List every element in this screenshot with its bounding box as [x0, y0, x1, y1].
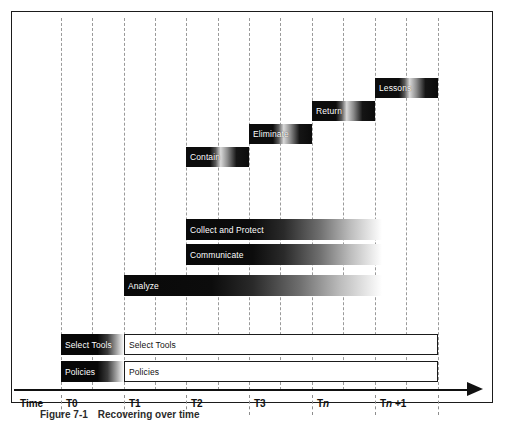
gantt-bar-return[interactable]: Return: [312, 101, 375, 121]
gantt-bar-eliminate[interactable]: Eliminate: [249, 124, 312, 144]
gantt-bar-label: Communicate: [190, 250, 244, 260]
summary-chip-label: Select Tools: [65, 340, 112, 350]
gantt-bar-label: Eliminate: [253, 129, 289, 139]
gantt-bar-analyze[interactable]: Analyze: [124, 275, 382, 296]
axis-title: Time: [20, 398, 43, 409]
figure-frame: Lessons Return Eliminate Contain Collect…: [11, 11, 493, 403]
summary-box-policies[interactable]: Policies: [124, 361, 438, 382]
axis-tick-t3: T3: [254, 398, 266, 409]
summary-chip-policies[interactable]: Policies: [61, 361, 124, 382]
figure-caption-number: Figure 7-1: [40, 409, 88, 420]
axis-tick-t0: T0: [66, 398, 78, 409]
axis-tick-t1: T1: [129, 398, 141, 409]
gantt-bar-label: Contain: [190, 152, 220, 162]
figure-caption-text: Recovering over time: [98, 409, 200, 420]
summary-box-select-tools[interactable]: Select Tools: [124, 334, 438, 355]
axis-tick-tn-plus-1: Tn +1: [380, 398, 406, 409]
summary-box-label: Select Tools: [129, 340, 176, 350]
axis-tick-t2: T2: [191, 398, 203, 409]
gantt-bar-label: Analyze: [128, 281, 159, 291]
time-axis-line: [14, 389, 469, 391]
summary-chip-label: Policies: [65, 367, 95, 377]
chart-plot-area: Lessons Return Eliminate Contain Collect…: [12, 12, 492, 402]
gantt-bar-collect-and-protect[interactable]: Collect and Protect: [186, 219, 382, 240]
gantt-bar-label: Return: [316, 106, 342, 116]
axis-tick-tn: Tn: [317, 398, 329, 409]
summary-chip-select-tools[interactable]: Select Tools: [61, 334, 124, 355]
gantt-bar-label: Collect and Protect: [190, 225, 264, 235]
gantt-bar-lessons[interactable]: Lessons: [375, 78, 438, 98]
summary-box-label: Policies: [129, 367, 159, 377]
figure-caption: Figure 7-1Recovering over time: [40, 409, 480, 420]
gantt-bar-contain[interactable]: Contain: [186, 147, 249, 167]
gantt-bar-communicate[interactable]: Communicate: [186, 244, 382, 265]
gridline: [438, 18, 439, 390]
gantt-bar-label: Lessons: [379, 83, 411, 93]
